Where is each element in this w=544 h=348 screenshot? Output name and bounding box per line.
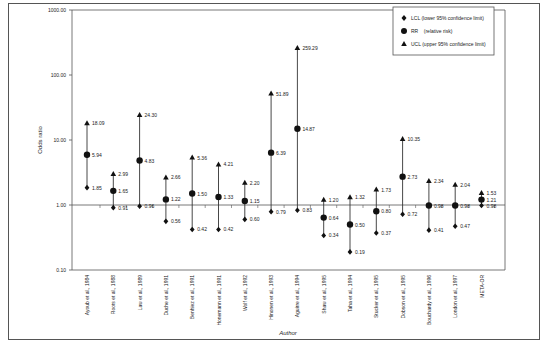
x-axis-label: Author [278, 330, 298, 336]
ucl-triangle-marker [163, 174, 169, 179]
y-axis-label: Odds ratio [37, 126, 43, 154]
lcl-diamond-marker [164, 219, 169, 225]
lcl-diamond-marker [111, 205, 116, 211]
x-category-label: Law et al., 1989 [137, 275, 143, 311]
lcl-value-label: 0.47 [460, 223, 470, 229]
legend-label-rr: RR (relative risk) [411, 28, 453, 34]
ucl-value-label: 2.34 [434, 178, 444, 184]
x-category-label: Roots et al., 1988 [110, 275, 116, 314]
study-row: 5.361.500.42 [189, 155, 207, 233]
rr-circle-marker [136, 157, 142, 163]
lcl-diamond-marker [374, 230, 379, 236]
x-category-label: Ayoub et al., 1984 [84, 275, 90, 315]
lcl-diamond-marker [190, 227, 195, 233]
ucl-value-label: 1.53 [487, 190, 497, 196]
rr-value-label: 0.80 [381, 208, 391, 214]
x-category-label: Stucker et al., 1995 [373, 275, 379, 318]
lcl-value-label: 0.34 [329, 232, 339, 238]
ucl-value-label: 10.35 [408, 136, 421, 142]
study-row: 2.201.150.60 [242, 180, 260, 223]
ucl-value-label: 51.89 [276, 91, 289, 97]
legend-label-lcl: LCL (lower 95% confidence limit) [411, 15, 484, 21]
x-category-label: Taha et al., 1994 [347, 275, 353, 312]
rr-value-label: 0.98 [434, 203, 444, 209]
lcl-diamond-marker [321, 233, 326, 239]
circle-marker-icon [401, 28, 407, 34]
legend-label-ucl: UCL (upper 95% confidence limit) [411, 41, 486, 47]
study-row: 1.730.800.37 [373, 187, 391, 237]
rr-circle-marker [347, 221, 353, 227]
y-tick-label: 1.00 [56, 202, 66, 208]
lcl-value-label: 0.42 [197, 226, 207, 232]
lcl-value-label: 0.42 [224, 226, 234, 232]
lcl-value-label: 0.41 [434, 227, 444, 233]
rr-value-label: 1.33 [224, 194, 234, 200]
forest-plot: Odds ratio Author 0.101.0010.00100.00100… [0, 0, 544, 348]
x-category-label: META-OR [479, 275, 485, 298]
lcl-diamond-marker [400, 211, 405, 217]
rr-circle-marker [84, 152, 90, 158]
lcl-value-label: 0.19 [355, 249, 365, 255]
study-row: 18.095.941.85 [84, 120, 105, 190]
ucl-triangle-marker [216, 161, 222, 166]
lcl-value-label: 0.72 [408, 211, 418, 217]
rr-circle-marker [163, 196, 169, 202]
lcl-diamond-marker [479, 203, 484, 209]
ucl-triangle-marker [242, 180, 248, 185]
ucl-triangle-marker [189, 155, 195, 160]
lcl-value-label: 0.37 [381, 230, 391, 236]
lcl-diamond-marker [242, 217, 247, 223]
ucl-triangle-marker [347, 194, 353, 199]
x-category-label: Honemann et al., 1991 [216, 275, 222, 326]
lcl-value-label: 0.83 [302, 207, 312, 213]
ucl-triangle-marker [452, 182, 458, 187]
ucl-triangle-marker [374, 187, 380, 192]
rr-value-label: 1.50 [197, 191, 207, 197]
y-ticks: 0.101.0010.00100.001000.00 [48, 7, 72, 273]
x-category-label: Dobson et al., 1995 [400, 275, 406, 319]
x-category-label: Aguirre et al., 1994 [294, 275, 300, 317]
rr-value-label: 0.98 [460, 203, 470, 209]
lcl-diamond-marker [427, 227, 432, 233]
ucl-value-label: 24.30 [145, 112, 158, 118]
lcl-value-label: 0.56 [171, 218, 181, 224]
ucl-triangle-marker [137, 112, 143, 117]
lcl-value-label: 0.91 [118, 205, 128, 211]
x-category-label: Duche et al., 1991 [163, 275, 169, 316]
x-category-label: Benhiez et al., 1991 [189, 275, 195, 319]
ucl-value-label: 2.04 [460, 182, 470, 188]
ucl-triangle-marker [400, 136, 406, 141]
rr-circle-marker [478, 196, 484, 202]
rr-value-label: 5.94 [92, 152, 102, 158]
study-row: 2.340.980.41 [426, 178, 444, 233]
rr-circle-marker [321, 214, 327, 220]
rr-value-label: 0.64 [329, 215, 339, 221]
ucl-value-label: 259.29 [302, 45, 318, 51]
lcl-value-label: 0.60 [250, 216, 260, 222]
ucl-value-label: 2.99 [118, 171, 128, 177]
lcl-diamond-marker [295, 207, 300, 213]
rr-value-label: 14.87 [302, 126, 315, 132]
x-category-label: Wolf et al., 1992 [242, 275, 248, 311]
y-tick-label: 0.10 [56, 267, 66, 273]
rr-value-label: 1.22 [171, 196, 181, 202]
ucl-triangle-marker [84, 120, 90, 125]
rr-circle-marker [110, 188, 116, 194]
x-category-label: Bouchardy et al., 1996 [426, 275, 432, 325]
study-row: 259.2914.870.83 [294, 45, 318, 213]
ucl-triangle-marker [111, 171, 117, 176]
ucl-triangle-marker [479, 190, 485, 195]
rr-circle-marker [215, 194, 221, 200]
study-row: 1.200.640.34 [321, 197, 339, 239]
y-tick-label: 10.00 [53, 137, 66, 143]
legend-item-ucl: UCL (upper 95% confidence limit) [401, 41, 486, 47]
rr-circle-marker [242, 198, 248, 204]
lcl-diamond-marker [137, 203, 142, 209]
ucl-triangle-marker [426, 178, 432, 183]
ucl-value-label: 2.20 [250, 180, 260, 186]
ucl-value-label: 1.73 [381, 187, 391, 193]
lcl-value-label: 1.85 [92, 185, 102, 191]
ucl-triangle-marker [321, 197, 327, 202]
ucl-value-label: 4.21 [224, 161, 234, 167]
legend: LCL (lower 95% confidence limit) RR (rel… [393, 7, 494, 55]
